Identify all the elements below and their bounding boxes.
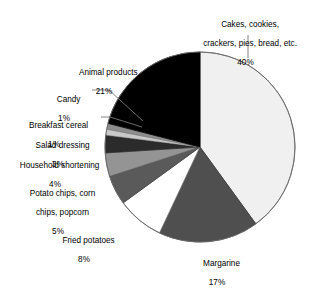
label-salad-dressing-line1: Salad dressing	[35, 141, 89, 150]
label-candy-line1: Candy	[57, 95, 81, 104]
label-cakes-pct: 40%	[180, 58, 311, 68]
label-margarine-line1: Margarine	[203, 259, 240, 268]
label-potato-chips-line2: chips, popcorn	[36, 208, 89, 217]
label-margarine: Margarine 17%	[182, 249, 252, 289]
label-cakes: Cakes, cookies, crackers, pies, bread, e…	[180, 10, 311, 87]
label-animal-products-line1: Animal products	[79, 68, 138, 77]
label-fried-potatoes: Fried potatoes 8%	[42, 226, 126, 284]
label-potato-chips-line1: Potato chips, corn	[30, 189, 96, 198]
label-margarine-pct: 17%	[182, 278, 252, 288]
label-breakfast-cereal-line1: Breakfast cereal	[29, 121, 88, 130]
label-fried-potatoes-pct: 8%	[42, 255, 126, 265]
label-cakes-line1: Cakes, cookies,	[221, 20, 279, 29]
label-fried-potatoes-line1: Fried potatoes	[62, 236, 114, 245]
label-cakes-line2: crackers, pies, bread, etc.	[203, 39, 297, 48]
label-household-shortening-line1: Household shortening	[20, 161, 100, 170]
